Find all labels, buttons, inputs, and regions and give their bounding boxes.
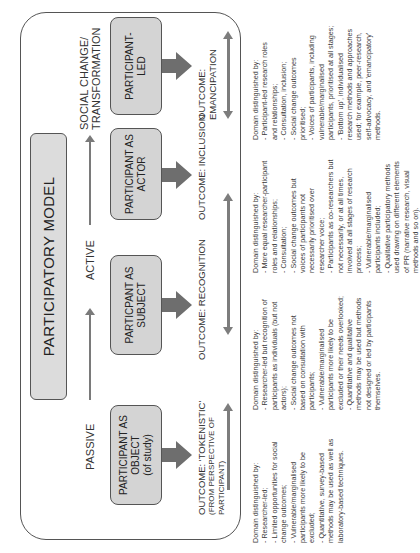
outcome-recognition: OUTCOME: RECOGNITION [196, 239, 207, 360]
description-recognition: Domain distinguished by: - Researcher-le… [251, 280, 383, 410]
arrow-right-icon [89, 314, 91, 400]
double-arrow-icon [227, 200, 230, 328]
down-arrow-icon [162, 441, 192, 469]
down-arrow-icon [162, 291, 192, 319]
double-arrow-icon [227, 38, 230, 112]
node-participant-as-actor: PARTICIPANT AS ACTOR [110, 128, 162, 220]
outcome-inclusion: OUTCOME: INCLUSION [196, 114, 207, 220]
stage-label-social-change: SOCIAL CHANGE/ TRANSFORMATION [78, 28, 102, 130]
outcome-tokenistic: OUTCOME: 'TOKENISTIC' (FROM PERSPECTIVE … [196, 401, 227, 515]
node-participant-as-subject: PARTICPANT AS SUBJECT [110, 255, 162, 355]
description-inclusion: Domain distinguished by: - More equal re… [251, 143, 420, 273]
stage-label-passive: PASSIVE [84, 424, 96, 470]
node-participant-led: PARTICIPANT- LED [110, 17, 162, 115]
outcome-emancipation: OUTCOME: EMANCIPATION [196, 0, 218, 120]
title-box: PARTICIPATORY MODEL [30, 133, 67, 400]
down-arrow-icon [162, 161, 192, 189]
diagram-title: PARTICIPATORY MODEL [40, 177, 57, 357]
description-emancipation: Domain distinguished by: - Participant-l… [251, 2, 383, 140]
description-tokenistic: Domain distinguished by: - Researcher-le… [251, 408, 345, 543]
stage-label-active: ACTIVE [84, 240, 96, 280]
arrow-right-icon [89, 141, 91, 225]
node-participant-as-object: PARTICIPANT AS OBJECT (of study) [110, 405, 162, 505]
down-arrow-icon [162, 52, 192, 80]
arrow-right-icon [227, 410, 230, 490]
